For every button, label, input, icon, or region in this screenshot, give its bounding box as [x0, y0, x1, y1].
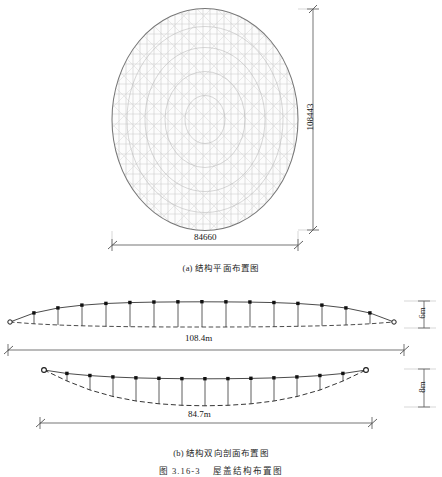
- upper-support-left: [8, 320, 12, 324]
- lower-chord-nodes: [65, 372, 344, 381]
- elliptical-roof-plan-view: 84660 108443: [0, 0, 442, 258]
- dimension-upper-span: [4, 344, 409, 356]
- sections-svg: [0, 282, 442, 442]
- figure-page: 84660 108443 (a) 结构平面布置图: [0, 0, 442, 477]
- plan-height-dimension-label: 108443: [305, 104, 315, 131]
- plan-view-svg: [0, 0, 442, 258]
- upper-span-dimension-label: 108.4m: [185, 333, 212, 343]
- upper-depth-dimension-label: 6m: [417, 307, 427, 319]
- caption-plan-view: (a) 结构平面布置图: [0, 261, 442, 273]
- bidirectional-section-views: 108.4m 6m 84.7m 8m: [0, 282, 442, 442]
- caption-section-view: (b) 结构双向剖面布置图: [0, 446, 442, 458]
- figure-title-text: 屋盖结构布置图: [213, 466, 284, 476]
- long-span-section-108-4m: [4, 300, 436, 356]
- upper-web-members: [34, 302, 370, 327]
- figure-title: 图 3.16-3屋盖结构布置图: [0, 464, 442, 476]
- lower-depth-dimension-label: 8m: [417, 381, 427, 393]
- lower-support-right: [364, 368, 369, 373]
- plan-grid-mesh: [98, 0, 330, 262]
- figure-title-number: 图 3.16-3: [159, 466, 201, 476]
- plan-width-dimension-label: 84660: [194, 232, 217, 242]
- short-span-section-84-7m: [36, 368, 436, 429]
- lower-span-dimension-label: 84.7m: [188, 409, 211, 419]
- upper-support-right: [392, 320, 396, 324]
- lower-support-left: [42, 368, 47, 373]
